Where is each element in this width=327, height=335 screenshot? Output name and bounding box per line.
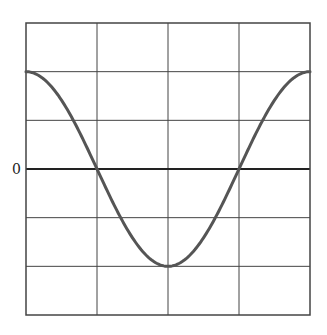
waveform-chart: 0 (0, 0, 327, 335)
y-zero-label: 0 (12, 161, 21, 177)
